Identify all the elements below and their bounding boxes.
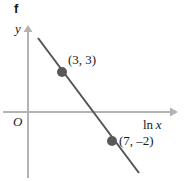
origin-label: O [13,115,22,128]
data-point-3-3 [57,67,67,77]
x-axis-label-variable: x [156,117,162,132]
coordinate-plot [0,0,186,181]
x-axis-label-prefix: ln [143,117,153,132]
point-label-7-neg2: (7, –2) [119,134,154,147]
data-point-7-neg2 [107,136,117,146]
y-axis-label: y [15,22,21,35]
function-label: f [14,2,18,15]
x-axis-arrowhead [170,108,178,117]
point-label-3-3: (3, 3) [68,53,96,66]
graph-figure: f y O ln x (3, 3) (7, –2) [0,0,186,181]
x-axis-label: ln x [143,118,162,131]
y-axis-arrowhead [24,25,33,32]
